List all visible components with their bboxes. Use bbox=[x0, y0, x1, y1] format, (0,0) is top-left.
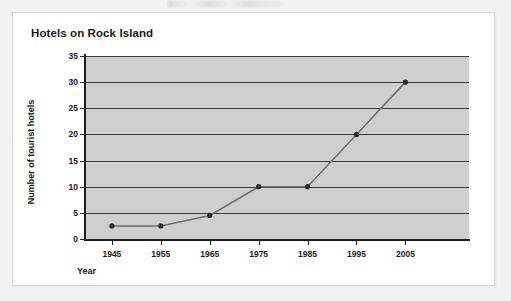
y-tick-mark-0 bbox=[80, 239, 84, 240]
x-tick-label-2005: 2005 bbox=[396, 249, 415, 259]
gridline-35 bbox=[85, 56, 469, 57]
y-tick-mark-25 bbox=[80, 108, 84, 109]
y-tick-mark-5 bbox=[80, 213, 84, 214]
x-tick-mark-1975 bbox=[259, 239, 260, 245]
chart-card: Hotels on Rock Island 05101520253035 194… bbox=[12, 12, 495, 286]
scan-artifact bbox=[168, 1, 288, 7]
x-tick-label-1985: 1985 bbox=[298, 249, 317, 259]
gridline-30 bbox=[85, 82, 469, 83]
x-tick-label-1945: 1945 bbox=[102, 249, 121, 259]
y-tick-mark-10 bbox=[80, 187, 84, 188]
y-tick-label-20: 20 bbox=[56, 129, 78, 139]
y-axis-line bbox=[84, 54, 86, 241]
x-tick-label-1975: 1975 bbox=[249, 249, 268, 259]
y-tick-label-5: 5 bbox=[56, 208, 78, 218]
y-tick-mark-35 bbox=[80, 56, 84, 57]
x-tick-mark-1955 bbox=[161, 239, 162, 245]
y-tick-label-30: 30 bbox=[56, 77, 78, 87]
gridline-10 bbox=[85, 187, 469, 188]
x-axis-line bbox=[84, 239, 470, 241]
gridline-15 bbox=[85, 161, 469, 162]
x-tick-label-1955: 1955 bbox=[151, 249, 170, 259]
y-tick-label-25: 25 bbox=[56, 103, 78, 113]
x-tick-label-1995: 1995 bbox=[347, 249, 366, 259]
x-axis-title: Year bbox=[77, 266, 96, 276]
x-tick-mark-1985 bbox=[308, 239, 309, 245]
gridline-5 bbox=[85, 213, 469, 214]
y-axis-title: Number of tourist hotels bbox=[26, 87, 36, 217]
y-tick-label-0: 0 bbox=[56, 234, 78, 244]
plot-area bbox=[85, 56, 469, 239]
x-tick-mark-2005 bbox=[405, 239, 406, 245]
plot-wrapper: 05101520253035 1945195519651975198519952… bbox=[13, 13, 494, 285]
y-tick-mark-20 bbox=[80, 134, 84, 135]
y-tick-label-15: 15 bbox=[56, 156, 78, 166]
y-tick-label-10: 10 bbox=[56, 182, 78, 192]
y-tick-mark-15 bbox=[80, 161, 84, 162]
x-tick-mark-1945 bbox=[112, 239, 113, 245]
y-tick-mark-30 bbox=[80, 82, 84, 83]
gridline-20 bbox=[85, 134, 469, 135]
x-tick-mark-1995 bbox=[356, 239, 357, 245]
x-tick-label-1965: 1965 bbox=[200, 249, 219, 259]
x-tick-mark-1965 bbox=[210, 239, 211, 245]
gridline-25 bbox=[85, 108, 469, 109]
y-tick-label-35: 35 bbox=[56, 51, 78, 61]
